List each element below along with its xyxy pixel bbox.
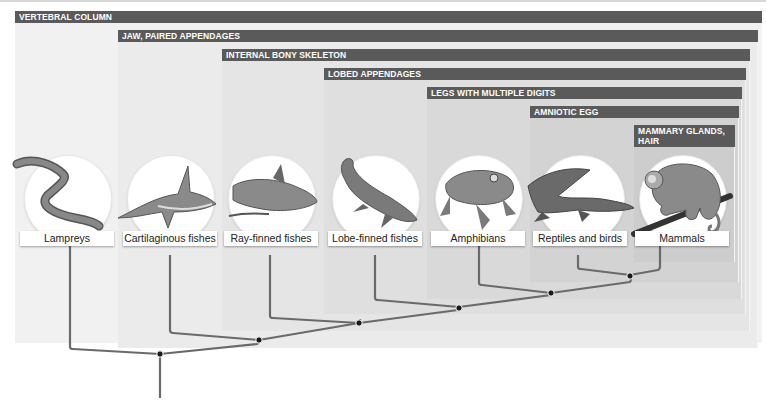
shark-illustration	[128, 156, 214, 242]
monkey-icon	[640, 156, 726, 242]
character-bar: INTERNAL BONY SKELETON	[222, 49, 750, 61]
lamprey-icon	[25, 156, 111, 242]
coelacanth-illustration	[333, 156, 419, 242]
character-bar: AMNIOTIC EGG	[530, 106, 739, 118]
taxon-label-lobe-finned-fishes: Lobe-finned fishes	[328, 231, 422, 246]
taxon-label-ray-finned-fishes: Ray-finned fishes	[224, 231, 318, 246]
character-bar: LOBED APPENDAGES	[324, 68, 746, 80]
crocodile-icon	[538, 156, 624, 242]
taxon-label-reptiles-birds: Reptiles and birds	[533, 231, 627, 246]
character-bar: LEGS WITH MULTIPLE DIGITS	[427, 87, 742, 99]
top-border	[0, 0, 766, 2]
character-bar: JAW, PAIRED APPENDAGES	[118, 30, 758, 42]
ray-finned-fish-illustration	[229, 156, 315, 242]
frog-icon	[436, 156, 522, 242]
crocodile-illustration	[538, 156, 624, 242]
coelacanth-icon	[333, 156, 419, 242]
taxon-label-mammals: Mammals	[635, 231, 729, 246]
character-bar: VERTEBRAL COLUMN	[15, 11, 762, 23]
taxon-label-lampreys: Lampreys	[20, 231, 114, 246]
lamprey-illustration	[25, 156, 111, 242]
taxon-label-amphibians: Amphibians	[431, 231, 525, 246]
taxon-label-cartilaginous-fishes: Cartilaginous fishes	[123, 231, 217, 246]
monkey-illustration	[640, 156, 726, 242]
character-bar: MAMMARY GLANDS, HAIR	[634, 125, 735, 147]
shark-icon	[128, 156, 214, 242]
ray-finned-fish-icon	[229, 156, 315, 242]
frog-illustration	[436, 156, 522, 242]
node-vertebrates	[157, 351, 163, 357]
